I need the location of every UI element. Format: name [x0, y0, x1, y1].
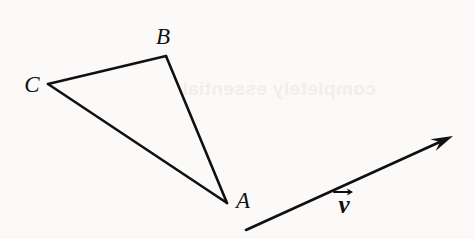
- vertex-label-a: A: [234, 188, 251, 213]
- vertex-labels: A B C: [24, 24, 251, 213]
- edge-b-a: [166, 56, 227, 203]
- geometry-figure: A B C ν: [0, 0, 475, 239]
- triangle-edges: [48, 56, 227, 203]
- vertex-label-b: B: [156, 24, 170, 49]
- edge-c-a: [48, 84, 227, 203]
- vector-label-nu: ν: [338, 191, 350, 218]
- edge-c-b: [48, 56, 166, 84]
- vector-label-group: ν: [334, 188, 353, 218]
- vertex-label-c: C: [24, 72, 40, 97]
